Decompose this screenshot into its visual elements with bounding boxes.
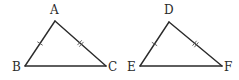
side-ac [55,21,106,66]
tick-marks-abc [37,40,83,46]
triangle-abc: A B C [12,3,117,74]
vertex-label-f: F [224,60,232,74]
vertex-label-e: E [127,60,136,74]
tick-marks-def [152,41,199,47]
side-df [169,22,222,66]
vertex-label-d: D [164,3,174,17]
vertex-label-b: B [12,60,21,74]
vertex-label-a: A [49,3,59,17]
vertex-label-c: C [108,60,117,74]
triangle-def: D E F [127,3,232,74]
two-triangles-diagram: A B C D E F [0,0,239,80]
